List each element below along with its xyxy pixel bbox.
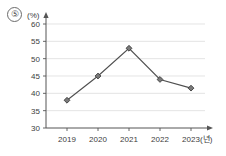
x-axis-arrow-icon: [207, 125, 213, 130]
y-tick-label: 30: [31, 124, 40, 133]
x-tick-label: 2023: [182, 135, 200, 144]
y-tick-label: 55: [31, 37, 40, 46]
x-tick-label: 2021: [120, 135, 138, 144]
data-markers-group: [64, 45, 194, 103]
y-axis-arrow-icon: [43, 12, 48, 18]
axis-lines-group: [43, 12, 213, 131]
x-tick-labels-group: 20192020202120222023: [58, 135, 200, 144]
y-tick-label: 35: [31, 107, 40, 116]
data-point-marker: [188, 85, 194, 91]
chart-figure: ⑤ (%) (년) 30354045505560 201920202021202…: [0, 0, 226, 156]
data-series-group: [67, 48, 191, 100]
y-tick-label: 60: [31, 20, 40, 29]
x-tick-label: 2019: [58, 135, 76, 144]
series-line: [67, 48, 191, 100]
x-tick-label: 2020: [89, 135, 107, 144]
x-tick-label: 2022: [151, 135, 169, 144]
y-tick-label: 45: [31, 72, 40, 81]
y-tick-label: 50: [31, 55, 40, 64]
y-tick-labels-group: 30354045505560: [31, 20, 40, 133]
line-chart-plot: 30354045505560 20192020202120222023: [0, 0, 226, 156]
y-tick-label: 40: [31, 89, 40, 98]
